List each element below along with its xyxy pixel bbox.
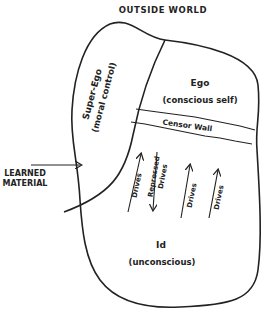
ego-desc: (conscious self)	[162, 95, 237, 105]
ego-label: Ego	[191, 78, 210, 88]
psyche-diagram: OUTSIDE WORLD Super-Ego (moral control) …	[0, 0, 264, 323]
censor-wall-label: Censor Wall	[162, 118, 213, 134]
drive-label-3: Drives	[186, 182, 199, 208]
learned-material-line2: MATERIAL	[3, 179, 48, 188]
drive-label-1: Drives	[131, 172, 144, 198]
outside-world-title: OUTSIDE WORLD	[119, 5, 207, 15]
id-label: Id	[156, 240, 166, 250]
learned-material-line1: LEARNED	[4, 169, 46, 178]
id-desc: (unconscious)	[129, 257, 196, 267]
